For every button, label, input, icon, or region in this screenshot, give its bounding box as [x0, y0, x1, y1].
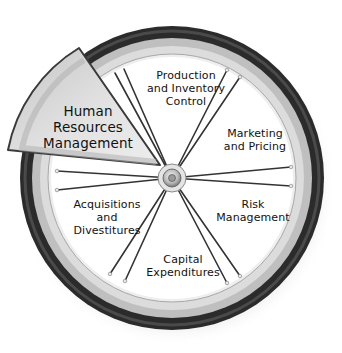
- segment-label-risk[interactable]: Risk Management: [208, 198, 298, 224]
- label-line: Control: [136, 95, 236, 108]
- label-line: Divestitures: [62, 224, 152, 237]
- segment-label-marketing[interactable]: Marketing and Pricing: [210, 127, 300, 153]
- label-line: Production: [136, 69, 236, 82]
- label-line: Human: [38, 103, 138, 119]
- label-line: Marketing: [210, 127, 300, 140]
- segment-label-capital[interactable]: Capital Expenditures: [138, 253, 228, 279]
- label-line: Resources: [38, 119, 138, 135]
- label-line: Risk: [208, 198, 298, 211]
- label-line: Expenditures: [138, 266, 228, 279]
- label-line: Management: [208, 211, 298, 224]
- segment-label-production[interactable]: Production and Inventory Control: [136, 69, 236, 108]
- label-line: Management: [38, 135, 138, 151]
- hub-axle: [169, 175, 176, 182]
- wheel-diagram: [0, 0, 342, 353]
- label-line: and Inventory: [136, 82, 236, 95]
- label-line: Acquisitions: [62, 198, 152, 211]
- label-line: Capital: [138, 253, 228, 266]
- label-line: and: [62, 211, 152, 224]
- label-line: and Pricing: [210, 140, 300, 153]
- segment-label-acquisitions[interactable]: Acquisitions and Divestitures: [62, 198, 152, 237]
- segment-label-human-resources[interactable]: Human Resources Management: [38, 103, 138, 151]
